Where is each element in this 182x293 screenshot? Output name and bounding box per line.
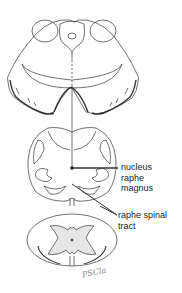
label-tract-line2: tract — [118, 221, 167, 232]
label-nucleus-raphe-magnus: nucleus raphe magnus — [121, 162, 153, 194]
label-raphe-spinal-tract: raphe spinal tract — [118, 210, 167, 231]
label-nucleus-line1: nucleus — [121, 162, 153, 173]
tract-leader-line-2 — [100, 206, 117, 215]
upper-brainstem-section — [7, 20, 138, 114]
label-tract-line1: raphe spinal — [118, 210, 167, 221]
spinal-cord-section — [27, 214, 117, 266]
label-nucleus-line3: magnus — [121, 183, 153, 194]
label-nucleus-line2: raphe — [121, 173, 153, 184]
raphe-spinal-diagram — [0, 0, 182, 293]
